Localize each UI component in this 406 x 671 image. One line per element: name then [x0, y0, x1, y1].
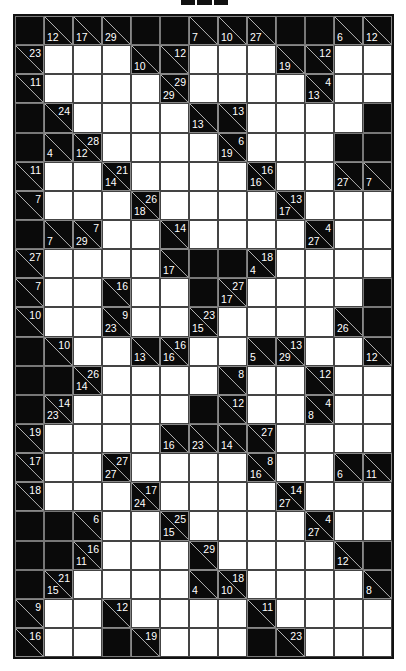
entry-cell[interactable]	[334, 366, 363, 395]
entry-cell[interactable]	[334, 191, 363, 220]
entry-cell[interactable]	[276, 541, 305, 570]
entry-cell[interactable]	[131, 249, 160, 278]
entry-cell[interactable]	[218, 220, 247, 249]
entry-cell[interactable]	[218, 162, 247, 191]
entry-cell[interactable]	[131, 103, 160, 132]
entry-cell[interactable]	[131, 220, 160, 249]
entry-cell[interactable]	[276, 424, 305, 453]
entry-cell[interactable]	[44, 307, 73, 336]
entry-cell[interactable]	[160, 278, 189, 307]
entry-cell[interactable]	[334, 599, 363, 628]
entry-cell[interactable]	[102, 249, 131, 278]
entry-cell[interactable]	[305, 191, 334, 220]
entry-cell[interactable]	[131, 599, 160, 628]
entry-cell[interactable]	[160, 103, 189, 132]
entry-cell[interactable]	[160, 395, 189, 424]
entry-cell[interactable]	[131, 395, 160, 424]
entry-cell[interactable]	[102, 191, 131, 220]
entry-cell[interactable]	[305, 570, 334, 599]
entry-cell[interactable]	[363, 366, 392, 395]
entry-cell[interactable]	[44, 424, 73, 453]
entry-cell[interactable]	[218, 511, 247, 540]
entry-cell[interactable]	[334, 74, 363, 103]
entry-cell[interactable]	[73, 162, 102, 191]
entry-cell[interactable]	[247, 307, 276, 336]
entry-cell[interactable]	[247, 541, 276, 570]
entry-cell[interactable]	[44, 628, 73, 657]
entry-cell[interactable]	[218, 599, 247, 628]
entry-cell[interactable]	[276, 453, 305, 482]
entry-cell[interactable]	[189, 599, 218, 628]
entry-cell[interactable]	[276, 570, 305, 599]
entry-cell[interactable]	[160, 541, 189, 570]
entry-cell[interactable]	[160, 366, 189, 395]
entry-cell[interactable]	[218, 482, 247, 511]
entry-cell[interactable]	[44, 74, 73, 103]
entry-cell[interactable]	[334, 337, 363, 366]
entry-cell[interactable]	[73, 424, 102, 453]
entry-cell[interactable]	[218, 307, 247, 336]
entry-cell[interactable]	[363, 249, 392, 278]
entry-cell[interactable]	[363, 74, 392, 103]
entry-cell[interactable]	[189, 45, 218, 74]
entry-cell[interactable]	[102, 395, 131, 424]
entry-cell[interactable]	[363, 395, 392, 424]
entry-cell[interactable]	[102, 570, 131, 599]
entry-cell[interactable]	[218, 453, 247, 482]
entry-cell[interactable]	[247, 74, 276, 103]
entry-cell[interactable]	[363, 511, 392, 540]
entry-cell[interactable]	[276, 162, 305, 191]
entry-cell[interactable]	[131, 278, 160, 307]
entry-cell[interactable]	[334, 570, 363, 599]
entry-cell[interactable]	[276, 103, 305, 132]
entry-cell[interactable]	[160, 133, 189, 162]
entry-cell[interactable]	[276, 599, 305, 628]
entry-cell[interactable]	[73, 45, 102, 74]
entry-cell[interactable]	[131, 541, 160, 570]
entry-cell[interactable]	[305, 278, 334, 307]
entry-cell[interactable]	[102, 133, 131, 162]
entry-cell[interactable]	[276, 366, 305, 395]
entry-cell[interactable]	[73, 74, 102, 103]
entry-cell[interactable]	[44, 249, 73, 278]
entry-cell[interactable]	[131, 162, 160, 191]
entry-cell[interactable]	[73, 249, 102, 278]
entry-cell[interactable]	[102, 45, 131, 74]
entry-cell[interactable]	[276, 220, 305, 249]
entry-cell[interactable]	[44, 191, 73, 220]
entry-cell[interactable]	[160, 191, 189, 220]
entry-cell[interactable]	[189, 191, 218, 220]
entry-cell[interactable]	[160, 307, 189, 336]
entry-cell[interactable]	[305, 307, 334, 336]
entry-cell[interactable]	[334, 511, 363, 540]
entry-cell[interactable]	[218, 45, 247, 74]
entry-cell[interactable]	[247, 191, 276, 220]
entry-cell[interactable]	[73, 570, 102, 599]
entry-cell[interactable]	[363, 220, 392, 249]
entry-cell[interactable]	[305, 103, 334, 132]
entry-cell[interactable]	[276, 395, 305, 424]
entry-cell[interactable]	[305, 541, 334, 570]
entry-cell[interactable]	[247, 511, 276, 540]
entry-cell[interactable]	[73, 453, 102, 482]
entry-cell[interactable]	[305, 482, 334, 511]
entry-cell[interactable]	[363, 599, 392, 628]
entry-cell[interactable]	[189, 511, 218, 540]
entry-cell[interactable]	[305, 133, 334, 162]
entry-cell[interactable]	[218, 628, 247, 657]
entry-cell[interactable]	[189, 74, 218, 103]
entry-cell[interactable]	[334, 103, 363, 132]
entry-cell[interactable]	[131, 307, 160, 336]
entry-cell[interactable]	[334, 45, 363, 74]
entry-cell[interactable]	[363, 424, 392, 453]
entry-cell[interactable]	[102, 424, 131, 453]
entry-cell[interactable]	[73, 395, 102, 424]
entry-cell[interactable]	[305, 453, 334, 482]
entry-cell[interactable]	[247, 366, 276, 395]
entry-cell[interactable]	[73, 278, 102, 307]
entry-cell[interactable]	[305, 599, 334, 628]
entry-cell[interactable]	[44, 162, 73, 191]
entry-cell[interactable]	[334, 395, 363, 424]
entry-cell[interactable]	[102, 541, 131, 570]
entry-cell[interactable]	[334, 220, 363, 249]
